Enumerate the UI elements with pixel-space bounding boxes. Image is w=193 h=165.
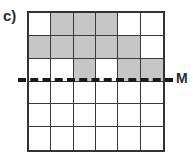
- grid-cell: [118, 13, 140, 36]
- grid-cell: [118, 36, 140, 59]
- grid-cell: [51, 127, 73, 150]
- grid-cell: [51, 104, 73, 127]
- grid-cell: [96, 82, 118, 105]
- grid-cell: [96, 104, 118, 127]
- grid-cell: [74, 82, 96, 105]
- grid-cell: [118, 104, 140, 127]
- grid-cell: [141, 13, 163, 36]
- mirror-line: [18, 78, 173, 82]
- mirror-line-label: M: [176, 70, 188, 86]
- grid-cell: [74, 127, 96, 150]
- grid-cell: [118, 127, 140, 150]
- grid-cell: [51, 82, 73, 105]
- grid-cell: [74, 13, 96, 36]
- grid-cell: [141, 104, 163, 127]
- grid-cell: [29, 36, 51, 59]
- grid-cell: [29, 13, 51, 36]
- figure-root: c): [0, 0, 193, 165]
- part-label: c): [3, 8, 16, 24]
- grid-cell: [141, 82, 163, 105]
- grid-cell: [51, 13, 73, 36]
- grid-cell: [29, 82, 51, 105]
- grid-cell: [96, 127, 118, 150]
- grid-cell: [29, 104, 51, 127]
- grid-cell: [141, 127, 163, 150]
- grid-cell: [29, 127, 51, 150]
- grid-cell: [51, 36, 73, 59]
- grid-cell: [96, 36, 118, 59]
- grid-cell: [74, 36, 96, 59]
- grid-cell: [96, 13, 118, 36]
- grid-cell: [74, 104, 96, 127]
- grid-cell: [118, 82, 140, 105]
- grid-cell: [141, 36, 163, 59]
